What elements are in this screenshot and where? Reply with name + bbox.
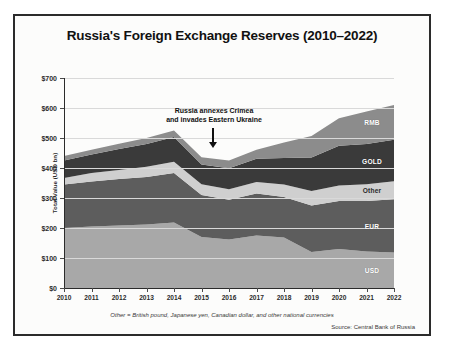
x-axis-tick xyxy=(174,288,175,292)
y-axis-label: $600 xyxy=(41,105,57,112)
x-axis-tick xyxy=(147,288,148,292)
gridline xyxy=(64,78,394,79)
y-axis-label: $200 xyxy=(41,225,57,232)
x-axis-label: 2018 xyxy=(277,294,292,301)
x-axis-tick xyxy=(202,288,203,292)
annotation-line-1: Russia annexes Crimea xyxy=(129,106,299,115)
x-axis-tick xyxy=(367,288,368,292)
chart-title: Russia's Foreign Exchange Reserves (2010… xyxy=(15,28,429,43)
x-axis-label: 2022 xyxy=(387,294,402,301)
gridline xyxy=(64,138,394,139)
series-label-usd: USD xyxy=(365,267,380,274)
y-axis-label: $300 xyxy=(41,195,57,202)
x-axis-tick xyxy=(64,288,65,292)
x-axis-tick xyxy=(119,288,120,292)
x-axis-tick xyxy=(257,288,258,292)
y-axis-label: $0 xyxy=(49,285,57,292)
x-axis-tick xyxy=(92,288,93,292)
gridline xyxy=(64,258,394,259)
crimea-annotation: Russia annexes Crimea and invades Easter… xyxy=(129,106,299,125)
series-label-gold: GOLD xyxy=(362,157,382,164)
chart-frame: Russia's Foreign Exchange Reserves (2010… xyxy=(13,14,431,336)
x-axis-label: 2011 xyxy=(84,294,98,301)
annotation-line-2: and invades Eastern Ukraine xyxy=(129,115,299,124)
y-axis-label: $500 xyxy=(41,135,57,142)
x-axis-label: 2017 xyxy=(249,294,264,301)
x-axis-tick xyxy=(229,288,230,292)
annotation-arrow-head-icon xyxy=(209,142,217,148)
series-label-other: Other xyxy=(363,187,382,194)
series-label-rmb: RMB xyxy=(364,119,380,126)
x-axis-label: 2010 xyxy=(57,294,72,301)
y-axis-label: $700 xyxy=(41,75,57,82)
x-axis-label: 2014 xyxy=(167,294,182,301)
x-axis-label: 2020 xyxy=(332,294,347,301)
y-axis-label: $400 xyxy=(41,165,57,172)
chart-source: Source: Central Bank of Russia xyxy=(331,324,415,330)
x-axis-tick xyxy=(394,288,395,292)
x-axis-tick xyxy=(312,288,313,292)
x-axis-tick xyxy=(284,288,285,292)
gridline xyxy=(64,228,394,229)
gridline xyxy=(64,198,394,199)
series-label-eur: EUR xyxy=(365,222,380,229)
x-axis-label: 2021 xyxy=(359,294,374,301)
y-axis-title: Total Value (USD bn) xyxy=(51,153,58,213)
chart-footnote: Other = British pound, Japanese yen, Can… xyxy=(15,312,429,318)
x-axis-label: 2012 xyxy=(112,294,127,301)
x-axis-label: 2019 xyxy=(304,294,319,301)
gridline xyxy=(64,168,394,169)
y-axis-label: $100 xyxy=(41,255,57,262)
y-axis-line xyxy=(64,78,65,288)
x-axis-label: 2016 xyxy=(222,294,237,301)
x-axis-label: 2015 xyxy=(194,294,209,301)
x-axis-tick xyxy=(339,288,340,292)
x-axis-label: 2013 xyxy=(139,294,154,301)
